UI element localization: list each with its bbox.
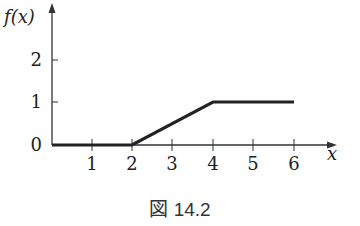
x-tick-label-6: 6 (288, 153, 299, 174)
chart-canvas: 1 2 3 4 5 6 1 2 0 x f(x) (0, 0, 360, 226)
y-ticks (52, 60, 58, 102)
x-tick-label-2: 2 (126, 153, 137, 174)
y-tick-label-1: 1 (31, 91, 42, 112)
x-tick-label-4: 4 (207, 153, 218, 174)
figure-caption: 図 14.2 (0, 194, 360, 221)
y-tick-label-2: 2 (31, 49, 42, 70)
x-tick-label-3: 3 (166, 153, 177, 174)
y-axis-arrow-icon (49, 3, 56, 13)
origin-label: 0 (31, 134, 42, 155)
x-tick-label-1: 1 (86, 153, 97, 174)
y-axis-label: f(x) (2, 6, 35, 27)
x-tick-label-5: 5 (247, 153, 258, 174)
x-axis-label: x (327, 143, 337, 164)
f-line (52, 102, 294, 145)
